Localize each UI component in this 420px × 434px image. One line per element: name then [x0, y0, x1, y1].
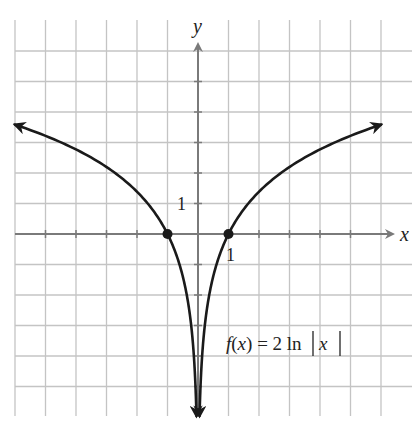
x-tick-label-one: 1 — [226, 245, 235, 265]
y-axis-label: y — [191, 15, 202, 38]
func-rhs: = 2 ln — [252, 333, 302, 354]
function-label: f(x) = 2 ln — [226, 333, 302, 355]
abs-var: x — [318, 333, 328, 354]
point-one-zero — [224, 229, 234, 239]
point-neg-one-zero — [163, 229, 173, 239]
x-axis-label: x — [399, 223, 409, 245]
function-graph: x y 1 1 f(x) = 2 ln x — [0, 0, 420, 434]
curve-left-branch — [15, 125, 196, 416]
grid — [15, 20, 412, 416]
curve-right-branch — [200, 125, 381, 416]
y-tick-label-one: 1 — [177, 194, 186, 214]
